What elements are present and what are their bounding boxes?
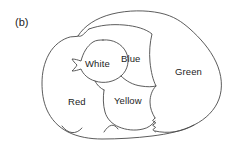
panel-label: (b) [15,17,28,28]
figure-panel: (b) White Blue Green Red Yellow [0,0,237,152]
boundary-notch-top [78,29,89,36]
boundary-notch-bottom-left [62,126,82,133]
border-green-bottom [155,125,194,132]
region-label-red: Red [68,97,86,107]
border-blue-yellow [121,76,156,87]
border-squiggle-yellow-green [153,118,156,132]
region-label-white: White [85,59,110,69]
boundary-notch-bottom-right [104,125,118,132]
region-label-blue: Blue [121,54,140,64]
region-label-green: Green [175,67,202,77]
region-label-yellow: Yellow [114,96,142,106]
